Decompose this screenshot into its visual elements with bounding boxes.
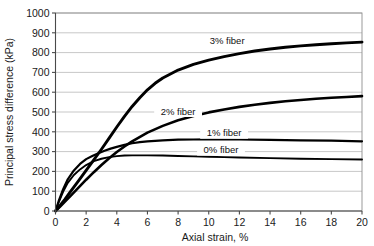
x-tick-label: 4: [114, 216, 120, 228]
y-tick-label: 600: [32, 86, 50, 98]
y-tick-label: 300: [32, 145, 50, 157]
x-tick-label: 8: [175, 216, 181, 228]
x-axis-title: Axial strain, %: [182, 231, 249, 243]
y-tick-label: 100: [32, 185, 50, 197]
stress-strain-chart: 01002003004005006007008009001000 0246810…: [0, 0, 374, 246]
y-tick-label: 800: [32, 46, 50, 58]
x-tick-label: 14: [264, 216, 276, 228]
chart-figure: 01002003004005006007008009001000 0246810…: [0, 0, 374, 246]
y-axis-ticks: 01002003004005006007008009001000: [26, 7, 55, 217]
y-tick-label: 400: [32, 126, 50, 138]
x-tick-label: 2: [83, 216, 89, 228]
x-tick-label: 20: [356, 216, 368, 228]
series-label: 1% fiber: [207, 127, 242, 138]
x-tick-label: 16: [295, 216, 307, 228]
x-tick-label: 10: [203, 216, 215, 228]
x-tick-label: 6: [145, 216, 151, 228]
y-tick-label: 1000: [26, 7, 50, 19]
y-tick-label: 0: [44, 205, 50, 217]
y-axis-title: Principal stress difference (kPa): [3, 38, 15, 186]
series-label: 2% fiber: [161, 106, 196, 117]
y-tick-label: 700: [32, 66, 50, 78]
series-label: 0% fiber: [204, 144, 239, 155]
x-tick-label: 12: [234, 216, 246, 228]
x-tick-label: 0: [53, 216, 59, 228]
y-tick-label: 200: [32, 165, 50, 177]
x-tick-label: 18: [326, 216, 338, 228]
y-tick-label: 900: [32, 27, 50, 39]
x-axis-ticks: 02468101214161820: [53, 211, 368, 228]
series-label: 3% fiber: [210, 35, 245, 46]
y-tick-label: 500: [32, 106, 50, 118]
